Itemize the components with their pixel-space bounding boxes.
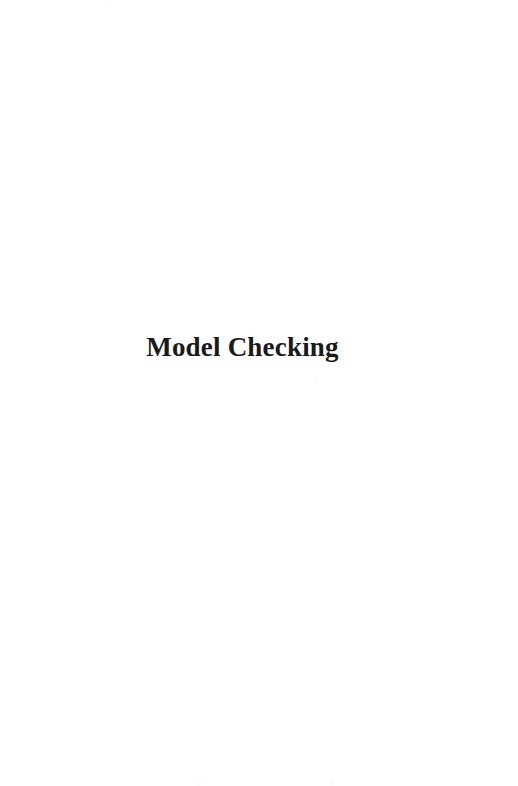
scan-speckle-artifact: [330, 781, 334, 785]
scan-speckle-artifact: [196, 782, 201, 785]
scan-speckle-artifact: [314, 377, 318, 381]
half-title-block: Model Checking: [0, 330, 485, 364]
scanned-page: Model Checking: [0, 0, 518, 786]
scan-speckle-artifact: [104, 1, 107, 5]
page-title: Model Checking: [0, 330, 485, 364]
